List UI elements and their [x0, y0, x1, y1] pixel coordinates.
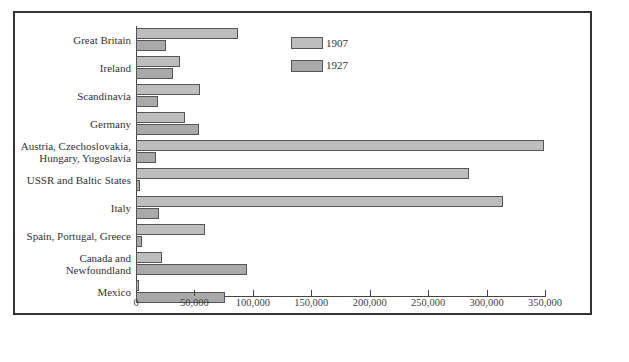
- bar-1907: [136, 280, 139, 291]
- bar-1907: [136, 224, 205, 235]
- category-label: Italy: [111, 202, 131, 214]
- bar-1927: [136, 124, 199, 135]
- category-label: Mexico: [97, 286, 131, 298]
- legend-label-1927: 1927: [326, 59, 348, 71]
- category-label: Germany: [90, 118, 131, 130]
- bar-1907: [136, 84, 200, 95]
- bar-1927: [136, 40, 166, 51]
- legend-swatch-1907: [291, 37, 323, 49]
- category-label: Canada andNewfoundland: [66, 252, 131, 276]
- category-label: USSR and Baltic States: [27, 174, 131, 186]
- category-label: Scandinavia: [77, 90, 131, 102]
- x-tick: [545, 290, 546, 296]
- bar-1907: [136, 252, 162, 263]
- bar-1927: [136, 68, 173, 79]
- category-label: Spain, Portugal, Greece: [27, 230, 131, 242]
- x-tick-label: 250,000: [411, 297, 445, 308]
- bar-1907: [136, 140, 544, 151]
- category-label: Austria, Czechoslovakia,Hungary, Yugosla…: [21, 140, 131, 164]
- category-label: Great Britain: [73, 34, 131, 46]
- bar-1907: [136, 28, 238, 39]
- bar-1927: [136, 152, 156, 163]
- bar-1907: [136, 112, 185, 123]
- x-tick: [311, 290, 312, 296]
- x-tick-label: 200,000: [353, 297, 387, 308]
- x-tick-label: 100,000: [236, 297, 270, 308]
- bar-1927: [136, 264, 247, 275]
- bar-1927: [136, 96, 158, 107]
- x-tick-label: 300,000: [470, 297, 504, 308]
- legend-swatch-1927: [291, 60, 323, 72]
- x-tick: [428, 290, 429, 296]
- bar-1927: [136, 208, 159, 219]
- x-tick: [370, 290, 371, 296]
- bar-1907: [136, 196, 503, 207]
- bar-1907: [136, 56, 180, 67]
- legend-label-1907: 1907: [326, 37, 348, 49]
- x-tick: [253, 290, 254, 296]
- bar-1927: [136, 236, 142, 247]
- x-tick-label: 350,000: [528, 297, 562, 308]
- bar-1927: [136, 180, 140, 191]
- x-tick-label: 50,000: [180, 297, 209, 308]
- x-tick: [194, 290, 195, 296]
- x-tick-label: 150,000: [294, 297, 328, 308]
- x-tick-label: 0: [133, 297, 138, 308]
- category-label: Ireland: [100, 62, 131, 74]
- x-tick: [487, 290, 488, 296]
- bar-1907: [136, 168, 469, 179]
